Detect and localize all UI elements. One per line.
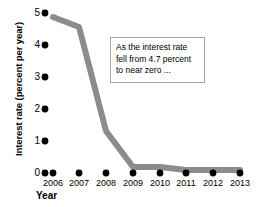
interest-rate-callout: As the interest rate fell from 4.7 perce… (110, 37, 205, 83)
interest-rate-chart: Interest rate (percent per year) 5 4 3 2… (0, 0, 266, 207)
y-tick-label-5: 5 (26, 8, 40, 18)
x-axis-title: Year (36, 190, 57, 201)
x-tick-label-2011: 2011 (171, 178, 201, 188)
y-tick-dots (42, 10, 49, 177)
x-tick-label-2008: 2008 (91, 178, 121, 188)
y-tick-label-4: 4 (26, 40, 40, 50)
callout-line-1: As the interest rate (116, 42, 199, 54)
x-tick-label-2007: 2007 (64, 178, 94, 188)
x-tick-label-2009: 2009 (118, 178, 148, 188)
x-tick-label-2012: 2012 (198, 178, 228, 188)
y-tick-label-1: 1 (26, 136, 40, 146)
x-tick-label-2013: 2013 (225, 178, 255, 188)
callout-line-3: to near zero ... (116, 65, 199, 77)
callout-line-2: fell from 4.7 percent (116, 54, 199, 66)
y-axis-title: Interest rate (percent per year) (14, 0, 24, 184)
y-tick-label-0: 0 (26, 168, 40, 178)
y-tick-label-3: 3 (26, 72, 40, 82)
x-tick-dots (50, 170, 244, 177)
y-tick-label-2: 2 (26, 104, 40, 114)
